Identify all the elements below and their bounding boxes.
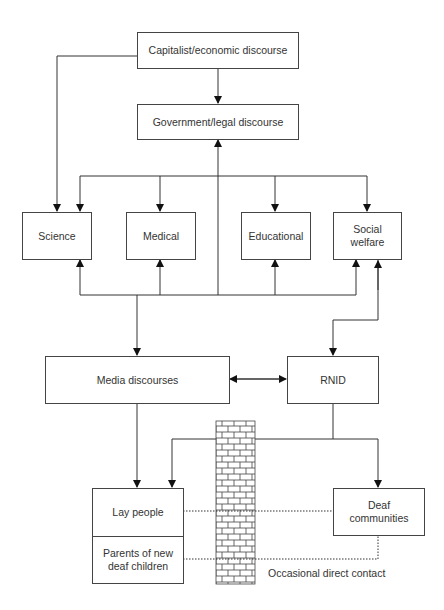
- node-lay-people: Lay people: [92, 488, 184, 537]
- node-parents: Parents of new deaf children: [92, 536, 184, 584]
- node-label: Social welfare: [344, 223, 391, 249]
- node-medical: Medical: [126, 212, 196, 260]
- contact-annotation: Occasional direct contact: [268, 567, 385, 579]
- node-label: Capitalist/economic discourse: [149, 44, 288, 57]
- node-label: Science: [38, 230, 75, 243]
- node-educational: Educational: [241, 212, 311, 260]
- node-label: Medical: [143, 230, 179, 243]
- node-label: RNID: [320, 374, 346, 387]
- node-label: Parents of new deaf children: [97, 547, 179, 573]
- node-label: Deaf communities: [342, 499, 416, 525]
- node-label: Government/legal discourse: [153, 116, 284, 129]
- arrow-capitalist-science: [57, 56, 137, 211]
- node-rnid: RNID: [287, 356, 379, 404]
- node-capitalist: Capitalist/economic discourse: [137, 32, 299, 69]
- node-label: Lay people: [112, 506, 163, 519]
- node-label: Educational: [249, 230, 304, 243]
- node-government: Government/legal discourse: [137, 104, 299, 140]
- node-label: Media discourses: [97, 374, 179, 387]
- node-social-welfare: Social welfare: [333, 212, 402, 260]
- brick-wall-barrier: [216, 421, 255, 584]
- node-deaf-communities: Deaf communities: [333, 488, 425, 536]
- node-media: Media discourses: [45, 356, 230, 404]
- node-science: Science: [22, 212, 92, 260]
